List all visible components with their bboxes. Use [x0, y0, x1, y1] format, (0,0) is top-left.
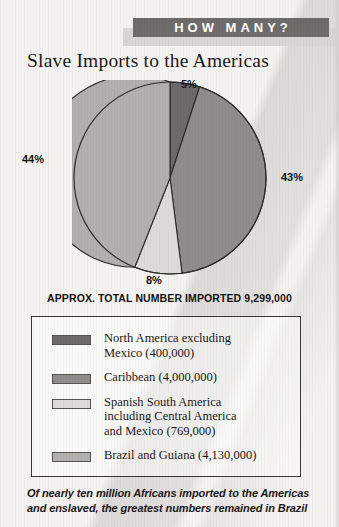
legend-swatch-spanish-south-america	[52, 399, 91, 409]
legend-item-spanish-south-america: Spanish South America including Central …	[52, 395, 298, 439]
banner-bar: HOW MANY?	[133, 18, 329, 37]
legend-swatch-caribbean	[52, 374, 91, 384]
pie-label-north-america: 5%	[181, 78, 197, 90]
pie-label-brazil-guiana: 44%	[22, 153, 44, 165]
pie-chart-svg	[72, 80, 268, 276]
legend-swatch-north-america	[52, 335, 91, 345]
pie-chart: 5% 43% 8% 44%	[0, 80, 339, 280]
legend-box: North America excluding Mexico (400,000)…	[31, 316, 301, 477]
banner-label: HOW MANY?	[170, 20, 292, 35]
legend-label-caribbean: Caribbean (4,000,000)	[104, 370, 217, 385]
pie-label-caribbean: 43%	[281, 171, 303, 183]
legend-label-line3: and Mexico (769,000)	[104, 424, 215, 438]
legend-label-line1: Spanish South America	[104, 395, 221, 409]
legend-swatch-brazil-guiana	[52, 452, 91, 462]
legend-label-spanish-south-america: Spanish South America including Central …	[104, 395, 237, 439]
pie-label-spanish-south-america: 8%	[146, 274, 162, 286]
legend-item-north-america: North America excluding Mexico (400,000)	[52, 331, 298, 360]
banner: HOW MANY?	[0, 18, 339, 46]
legend-item-caribbean: Caribbean (4,000,000)	[52, 370, 298, 385]
legend-label-line1: North America excluding	[104, 331, 231, 345]
cropped-body-text-sliver	[14, 0, 234, 8]
figure-caption: Of nearly ten million Africans imported …	[27, 486, 319, 516]
legend-item-brazil-guiana: Brazil and Guiana (4,130,000)	[52, 448, 298, 463]
legend-label-brazil-guiana: Brazil and Guiana (4,130,000)	[104, 448, 256, 463]
legend-list: North America excluding Mexico (400,000)…	[52, 331, 298, 473]
page-title: Slave Imports to the Americas	[27, 50, 269, 72]
legend-label-line2: Mexico (400,000)	[104, 346, 194, 360]
page-edge-shading	[334, 0, 339, 527]
total-imported-line: APPROX. TOTAL NUMBER IMPORTED 9,299,000	[0, 292, 339, 304]
legend-label-line2: including Central America	[104, 409, 237, 423]
legend-label-north-america: North America excluding Mexico (400,000)	[104, 331, 231, 360]
